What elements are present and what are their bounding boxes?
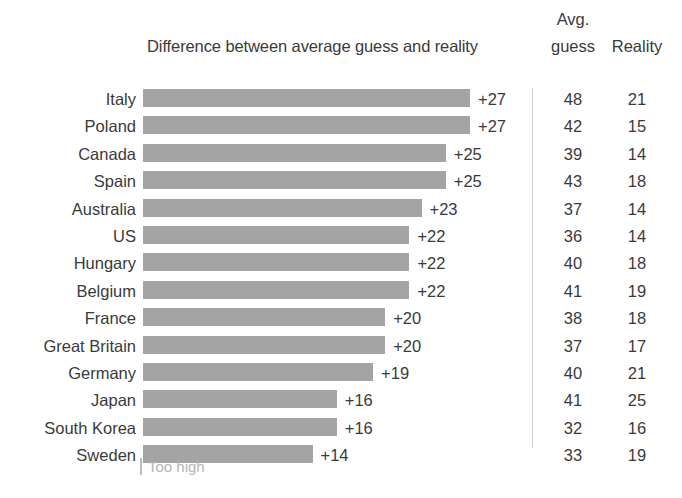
difference-bar [143, 226, 409, 244]
avg-guess-value: 40 [547, 364, 599, 383]
country-label: France [0, 309, 136, 328]
table-row: Germany+194021 [0, 362, 682, 389]
country-label: Great Britain [0, 337, 136, 356]
too-high-swatch [140, 458, 142, 475]
reality-value: 19 [606, 446, 668, 465]
reality-value: 14 [606, 227, 668, 246]
difference-bar [143, 253, 409, 271]
reality-value: 18 [606, 309, 668, 328]
difference-bar [143, 116, 470, 134]
bar-fill [143, 116, 470, 134]
country-label: Belgium [0, 282, 136, 301]
bar-fill [143, 363, 373, 381]
chart-container: Difference between average guess and rea… [0, 0, 682, 498]
difference-bar [143, 171, 446, 189]
bar-fill [143, 253, 409, 271]
table-row: Hungary+224018 [0, 252, 682, 279]
reality-value: 18 [606, 254, 668, 273]
avg-guess-value: 38 [547, 309, 599, 328]
difference-bar [143, 308, 385, 326]
difference-bar [143, 89, 470, 107]
table-row: France+203818 [0, 307, 682, 334]
reality-value: 15 [606, 117, 668, 136]
avg-guess-header-line1: Avg. [547, 10, 599, 29]
country-label: Australia [0, 200, 136, 219]
country-label: Poland [0, 117, 136, 136]
bar-fill [143, 336, 385, 354]
reality-value: 14 [606, 145, 668, 164]
reality-value: 17 [606, 337, 668, 356]
reality-value: 14 [606, 200, 668, 219]
bar-fill [143, 390, 337, 408]
country-label: South Korea [0, 419, 136, 438]
bar-fill [143, 281, 409, 299]
table-row: Poland+274215 [0, 115, 682, 142]
difference-value-label: +16 [345, 419, 373, 438]
difference-value-label: +19 [381, 364, 409, 383]
difference-value-label: +20 [393, 337, 421, 356]
table-row: Belgium+224119 [0, 280, 682, 307]
reality-value: 21 [606, 364, 668, 383]
country-label: Spain [0, 172, 136, 191]
reality-value: 19 [606, 282, 668, 301]
bar-fill [143, 171, 446, 189]
avg-guess-value: 41 [547, 391, 599, 410]
chart-rows: Italy+274821Poland+274215Canada+253914Sp… [0, 88, 682, 472]
avg-guess-value: 42 [547, 117, 599, 136]
difference-bar [143, 199, 422, 217]
difference-bar [143, 363, 373, 381]
difference-bar [143, 144, 446, 162]
table-row: Italy+274821 [0, 88, 682, 115]
avg-guess-value: 39 [547, 145, 599, 164]
reality-value: 25 [606, 391, 668, 410]
difference-value-label: +25 [454, 172, 482, 191]
avg-guess-value: 36 [547, 227, 599, 246]
table-row: South Korea+163216 [0, 417, 682, 444]
avg-guess-header-line2: guess [547, 37, 599, 56]
difference-value-label: +22 [417, 282, 445, 301]
bar-fill [143, 199, 422, 217]
bar-column-header: Difference between average guess and rea… [147, 37, 478, 56]
bar-fill [143, 308, 385, 326]
difference-bar [143, 281, 409, 299]
legend: Too high [140, 458, 205, 475]
reality-column-header: Reality [606, 37, 668, 56]
difference-value-label: +27 [478, 117, 506, 136]
reality-value: 21 [606, 90, 668, 109]
country-label: Sweden [0, 446, 136, 465]
difference-value-label: +20 [393, 309, 421, 328]
difference-value-label: +16 [345, 391, 373, 410]
avg-guess-value: 33 [547, 446, 599, 465]
bar-fill [143, 144, 446, 162]
reality-value: 16 [606, 419, 668, 438]
country-label: Hungary [0, 254, 136, 273]
avg-guess-value: 37 [547, 337, 599, 356]
difference-bar [143, 336, 385, 354]
bar-fill [143, 89, 470, 107]
difference-bar [143, 390, 337, 408]
difference-value-label: +22 [417, 227, 445, 246]
table-row: Great Britain+203717 [0, 335, 682, 362]
country-label: Germany [0, 364, 136, 383]
difference-value-label: +25 [454, 145, 482, 164]
country-label: Canada [0, 145, 136, 164]
table-row: Spain+254318 [0, 170, 682, 197]
difference-value-label: +14 [321, 446, 349, 465]
avg-guess-value: 43 [547, 172, 599, 191]
avg-guess-value: 32 [547, 419, 599, 438]
avg-guess-value: 41 [547, 282, 599, 301]
table-row: Canada+253914 [0, 143, 682, 170]
bar-fill [143, 418, 337, 436]
difference-bar [143, 418, 337, 436]
table-row: Japan+164125 [0, 389, 682, 416]
avg-guess-value: 37 [547, 200, 599, 219]
table-row: US+223614 [0, 225, 682, 252]
table-row: Sweden+143319 [0, 444, 682, 471]
avg-guess-value: 48 [547, 90, 599, 109]
bar-fill [143, 226, 409, 244]
difference-value-label: +22 [417, 254, 445, 273]
table-row: Australia+233714 [0, 198, 682, 225]
reality-value: 18 [606, 172, 668, 191]
country-label: US [0, 227, 136, 246]
country-label: Italy [0, 90, 136, 109]
